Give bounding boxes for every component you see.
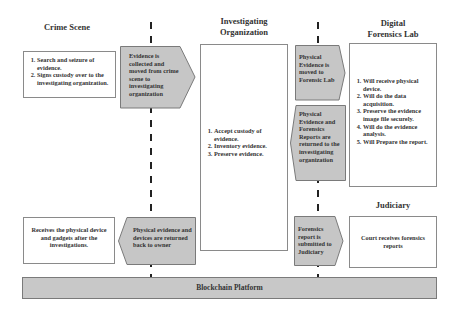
forensics-lab-task: Will receive physical device. — [363, 77, 433, 92]
court-box: Court receives forensics reports — [349, 216, 437, 268]
forensics-lab-title-line1: Digital — [349, 18, 437, 29]
crime-scene-tasks-box: Search and seizure of evidence. Signs cu… — [23, 51, 116, 98]
investigating-org-title: Investigating Organization — [200, 16, 288, 38]
investigating-org-title-line2: Organization — [200, 27, 288, 38]
judiciary-title: Judiciary — [349, 200, 437, 211]
forensics-lab-task: Preserve the evidence image file securel… — [363, 107, 433, 122]
arrow-back-to-owner: Physical evidence and devices are return… — [118, 217, 196, 265]
blockchain-platform-bar: Blockchain Platform — [22, 277, 437, 299]
court-text: Court receives forensics reports — [356, 234, 430, 249]
forensics-lab-task: Will do the evidence analysis. — [363, 123, 433, 138]
arrow-to-forensic-lab-label: Physical Evidence is moved to Forensic L… — [299, 53, 339, 83]
arrow-to-investigating-org: Evidence is collected and moved from cri… — [120, 46, 196, 109]
investigating-org-tasks-box: Accept custody of evidence. Inventory ev… — [200, 44, 288, 251]
investigating-org-task: Preserve evidence. — [214, 150, 284, 158]
arrow-back-to-investigating-org: Physical Evidence and Forensics Reports … — [290, 105, 346, 181]
arrow-to-judiciary-label: Forensics report is submitted to Judicia… — [298, 225, 340, 255]
arrow-back-to-investigating-org-label: Physical Evidence and Forensics Reports … — [299, 110, 345, 163]
forensics-lab-task: Will do the data acquisition. — [363, 92, 433, 107]
forensics-lab-title: Digital Forensics Lab — [349, 18, 437, 40]
forensics-lab-tasks-box: Will receive physical device. Will do th… — [349, 43, 437, 187]
owner-return-text: Receives the physical device and gadgets… — [31, 226, 106, 248]
arrow-to-investigating-org-label: Evidence is collected and moved from cri… — [129, 52, 183, 98]
arrow-back-to-owner-label: Physical evidence and devices are return… — [133, 226, 193, 249]
owner-return-box: Receives the physical device and gadgets… — [23, 217, 115, 264]
crime-scene-task: Search and seizure of evidence. — [37, 56, 112, 71]
forensics-lab-task: Will Prepare the report. — [363, 138, 433, 146]
forensics-lab-title-line2: Forensics Lab — [349, 29, 437, 40]
crime-scene-task: Signs custody over to the investigating … — [37, 71, 112, 86]
blockchain-platform-label: Blockchain Platform — [196, 283, 262, 292]
investigating-org-task: Inventory evidence. — [214, 142, 284, 150]
crime-scene-title: Crime Scene — [22, 22, 112, 33]
investigating-org-title-line1: Investigating — [200, 16, 288, 27]
arrow-to-judiciary: Forensics report is submitted to Judicia… — [294, 216, 344, 266]
investigating-org-task: Accept custody of evidence. — [214, 127, 284, 142]
arrow-to-forensic-lab: Physical Evidence is moved to Forensic L… — [295, 45, 346, 101]
